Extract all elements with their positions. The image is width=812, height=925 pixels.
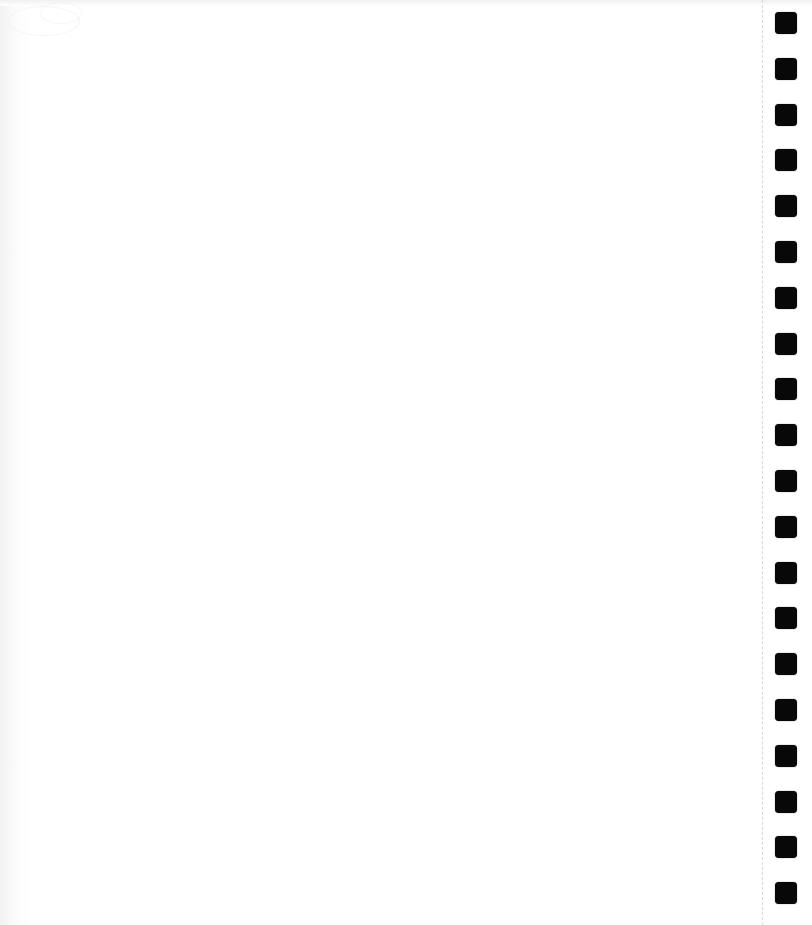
punch-hole [775, 836, 797, 858]
punch-hole [775, 378, 797, 400]
punch-hole [775, 516, 797, 538]
punch-hole [775, 745, 797, 767]
punch-hole [775, 562, 797, 584]
punch-hole [775, 241, 797, 263]
punch-hole [775, 791, 797, 813]
punch-hole [775, 607, 797, 629]
perforation-line [762, 0, 763, 925]
punch-hole [775, 58, 797, 80]
punch-hole [775, 882, 797, 904]
punch-hole [775, 470, 797, 492]
punch-hole [775, 333, 797, 355]
punch-hole [775, 653, 797, 675]
blank-page [0, 0, 812, 925]
punch-hole [775, 287, 797, 309]
punch-hole [775, 699, 797, 721]
punch-hole [775, 149, 797, 171]
scan-edge-shadow [0, 0, 812, 6]
punch-hole [775, 195, 797, 217]
punch-hole [775, 12, 797, 34]
binding-holes [775, 0, 799, 925]
punch-hole [775, 424, 797, 446]
scan-artifact [40, 2, 82, 24]
punch-hole [775, 104, 797, 126]
